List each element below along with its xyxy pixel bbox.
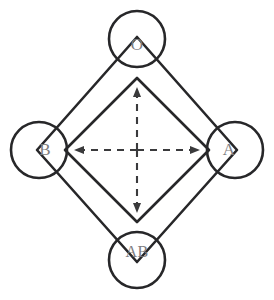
node-label-o: O — [131, 35, 144, 54]
node-label-ab: AB — [126, 243, 149, 260]
abo-diagram-canvas: O B A AB — [0, 0, 274, 300]
abo-diagram-svg: O B A AB — [0, 0, 274, 300]
arrow-head-right-icon — [190, 146, 200, 154]
node-label-b: B — [39, 140, 51, 159]
dashed-arrows-group — [74, 87, 200, 213]
arrow-head-up-icon — [133, 87, 141, 97]
arrow-head-down-icon — [133, 203, 141, 213]
arrow-head-left-icon — [74, 146, 84, 154]
node-label-a: A — [223, 140, 236, 159]
